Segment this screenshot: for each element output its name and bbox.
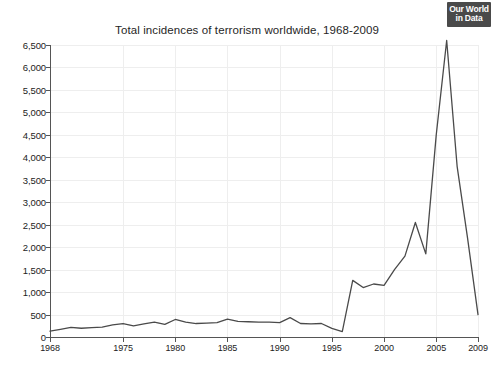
y-tick-mark: [46, 180, 50, 181]
chart-root: Our World in Data Total incidences of te…: [0, 0, 494, 370]
series-svg: [0, 0, 494, 370]
x-tick-mark: [280, 338, 281, 342]
x-tick-mark: [478, 338, 479, 342]
x-tick-mark: [332, 338, 333, 342]
y-tick-mark: [46, 247, 50, 248]
y-tick-mark: [46, 315, 50, 316]
x-tick-label: 1980: [165, 343, 185, 353]
y-tick-mark: [46, 90, 50, 91]
y-tick-mark: [46, 202, 50, 203]
x-tick-mark: [436, 338, 437, 342]
y-tick-mark: [46, 292, 50, 293]
y-tick-mark: [46, 67, 50, 68]
y-tick-mark: [46, 157, 50, 158]
y-tick-mark: [46, 45, 50, 46]
y-tick-mark: [46, 135, 50, 136]
x-tick-mark: [384, 338, 385, 342]
x-tick-label: 2009: [468, 343, 488, 353]
y-tick-mark: [46, 112, 50, 113]
x-tick-mark: [50, 338, 51, 342]
terrorism-incidents-line: [50, 41, 478, 332]
x-tick-label: 1968: [40, 343, 60, 353]
x-tick-mark: [123, 338, 124, 342]
y-tick-mark: [46, 270, 50, 271]
x-tick-label: 2000: [374, 343, 394, 353]
x-tick-label: 1985: [218, 343, 238, 353]
x-tick-label: 2005: [426, 343, 446, 353]
x-tick-mark: [175, 338, 176, 342]
x-tick-mark: [227, 338, 228, 342]
x-tick-label: 1990: [270, 343, 290, 353]
x-tick-label: 1975: [113, 343, 133, 353]
y-tick-mark: [46, 225, 50, 226]
x-tick-label: 1995: [322, 343, 342, 353]
